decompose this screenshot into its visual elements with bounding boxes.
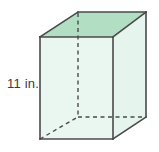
prism-figure: 11 in.: [0, 0, 159, 152]
front-face: [40, 37, 113, 139]
height-dimension-label: 11 in.: [7, 77, 39, 91]
